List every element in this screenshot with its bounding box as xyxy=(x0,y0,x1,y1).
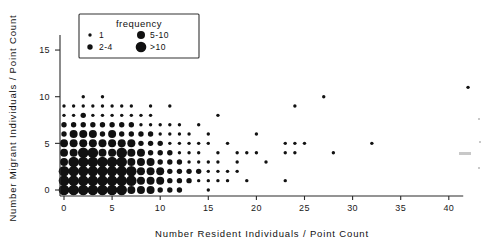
data-point xyxy=(62,114,65,117)
data-point xyxy=(137,149,145,157)
data-point xyxy=(147,186,155,194)
data-point xyxy=(187,160,190,163)
y-tick-label: 10 xyxy=(39,92,50,102)
data-point xyxy=(98,149,106,157)
data-point xyxy=(167,178,172,183)
data-point xyxy=(107,166,118,177)
data-point xyxy=(207,170,210,173)
data-point xyxy=(167,187,172,192)
data-point xyxy=(126,175,137,186)
data-points-layer xyxy=(59,86,470,196)
data-point xyxy=(110,114,113,117)
data-point xyxy=(149,114,152,117)
legend-label: 2-4 xyxy=(99,42,113,52)
data-point xyxy=(207,142,210,145)
data-point xyxy=(226,179,229,182)
data-point xyxy=(158,159,163,164)
data-point xyxy=(78,175,89,186)
data-point xyxy=(245,151,248,154)
data-point xyxy=(82,95,85,98)
data-point xyxy=(120,104,123,107)
data-point xyxy=(60,149,68,157)
data-point xyxy=(139,114,142,117)
x-tick-label: 5 xyxy=(109,203,114,213)
data-point xyxy=(107,157,118,168)
data-point xyxy=(147,158,155,166)
x-tick-label: 20 xyxy=(251,203,262,213)
data-point xyxy=(97,175,108,186)
data-point xyxy=(178,123,181,126)
data-point xyxy=(177,178,182,183)
y-axis-ticks: 051015 xyxy=(39,45,60,195)
data-point xyxy=(70,139,78,147)
x-tick-label: 10 xyxy=(155,203,166,213)
data-point xyxy=(156,167,164,175)
data-point xyxy=(332,151,335,154)
data-point xyxy=(216,114,219,117)
data-point xyxy=(60,158,68,166)
data-point xyxy=(101,104,104,107)
data-point xyxy=(129,131,134,136)
data-point xyxy=(293,151,296,154)
data-point xyxy=(90,122,95,127)
data-point xyxy=(197,142,200,145)
x-tick-label: 30 xyxy=(347,203,358,213)
data-point xyxy=(207,160,210,163)
data-point xyxy=(284,179,287,182)
data-point xyxy=(127,139,135,147)
data-point xyxy=(235,151,238,154)
data-point xyxy=(158,150,163,155)
data-point xyxy=(186,178,191,183)
data-point xyxy=(216,170,219,173)
data-point xyxy=(187,151,190,154)
data-point xyxy=(68,166,79,177)
data-point xyxy=(207,132,210,135)
data-point xyxy=(127,186,135,194)
legend-marker xyxy=(87,44,92,49)
data-point xyxy=(116,157,127,168)
data-point xyxy=(293,104,296,107)
data-point xyxy=(178,142,181,145)
speck-artifact xyxy=(478,118,480,120)
data-point xyxy=(149,104,152,107)
data-point xyxy=(130,104,133,107)
data-point xyxy=(119,131,124,136)
data-point xyxy=(158,141,163,146)
data-point xyxy=(177,159,182,164)
data-point xyxy=(216,151,219,154)
data-point xyxy=(126,166,137,177)
scan-artifacts xyxy=(459,118,481,169)
data-point xyxy=(148,131,153,136)
chart-svg: 0510152025303540 051015 Number Resident … xyxy=(0,0,488,245)
x-tick-label: 0 xyxy=(61,203,66,213)
legend-title: frequency xyxy=(116,18,162,29)
data-point xyxy=(88,166,99,177)
data-point xyxy=(89,139,97,147)
data-point xyxy=(148,150,153,155)
data-point xyxy=(370,142,373,145)
data-point xyxy=(216,160,219,163)
x-tick-label: 40 xyxy=(443,203,454,213)
data-point xyxy=(116,185,127,196)
speck-artifact xyxy=(478,167,480,169)
data-point xyxy=(168,104,171,107)
data-point xyxy=(101,95,104,98)
data-point xyxy=(72,104,75,107)
data-point xyxy=(466,86,469,89)
data-point xyxy=(118,139,126,147)
data-point xyxy=(61,131,66,136)
data-point xyxy=(167,169,172,174)
data-point xyxy=(116,147,127,158)
legend-marker xyxy=(137,31,145,39)
data-point xyxy=(78,147,89,158)
data-point xyxy=(78,157,89,168)
data-point xyxy=(147,167,155,175)
data-point xyxy=(116,175,127,186)
data-point xyxy=(197,151,200,154)
data-point xyxy=(159,132,162,135)
y-axis-title: Number Migrant Individuals / Point Count xyxy=(7,14,18,221)
data-point xyxy=(82,104,85,107)
data-point xyxy=(167,159,172,164)
data-point xyxy=(107,175,118,186)
data-point xyxy=(127,149,135,157)
